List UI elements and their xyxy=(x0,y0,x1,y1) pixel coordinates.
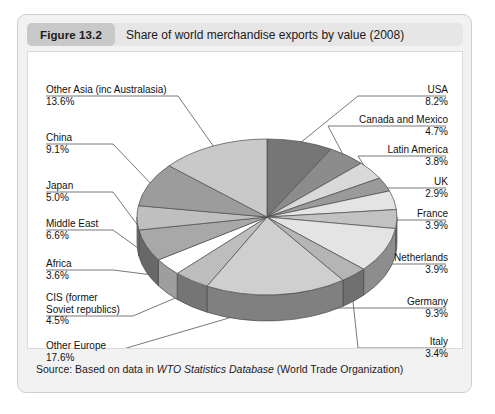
chart-panel: Other Asia (inc Australasia) 13.6% China… xyxy=(27,51,463,349)
pie-label-usa: USA 8.2% xyxy=(425,84,448,107)
pie-label-africa: Africa 3.6% xyxy=(46,258,72,281)
pie-label-germany: Germany 9.3% xyxy=(407,296,448,319)
pie-label-other-europe: Other Europe 17.6% xyxy=(46,340,106,363)
pie-label-canada-mexico: Canada and Mexico 4.7% xyxy=(359,114,448,137)
pie-label-middle-east: Middle East 6.6% xyxy=(46,218,98,241)
figure-caption: Share of world merchandise exports by va… xyxy=(126,23,404,46)
figure-title-bar: Figure 13.2 Share of world merchandise e… xyxy=(27,23,463,46)
pie-label-japan: Japan 5.0% xyxy=(46,180,73,203)
pie-label-other-asia: Other Asia (inc Australasia) 13.6% xyxy=(46,84,167,107)
pie-label-france: France 3.9% xyxy=(417,208,448,231)
pie-label-uk: UK 2.9% xyxy=(425,176,448,199)
pie-label-cis: CIS (former Soviet republics) 4.5% xyxy=(46,292,120,327)
source-note: Source: Based on data in WTO Statistics … xyxy=(36,363,403,375)
pie-label-italy: Italy 3.4% xyxy=(425,336,448,359)
pie-label-china: China 9.1% xyxy=(46,132,72,155)
figure-frame: Figure 13.2 Share of world merchandise e… xyxy=(17,14,472,393)
pie-label-netherlands: Netherlands 3.9% xyxy=(394,252,448,275)
pie-label-latin-america: Latin America 3.8% xyxy=(387,144,448,167)
figure-number-badge: Figure 13.2 xyxy=(27,23,115,46)
pie-top-slices-group xyxy=(137,139,397,295)
